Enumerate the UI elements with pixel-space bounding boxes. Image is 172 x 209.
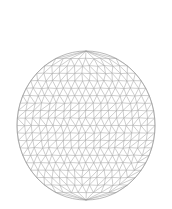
mesh-edges bbox=[17, 51, 155, 200]
mesh-edge-path bbox=[17, 51, 155, 200]
disk-triangular-mesh bbox=[0, 0, 172, 209]
mesh-figure bbox=[0, 0, 172, 209]
